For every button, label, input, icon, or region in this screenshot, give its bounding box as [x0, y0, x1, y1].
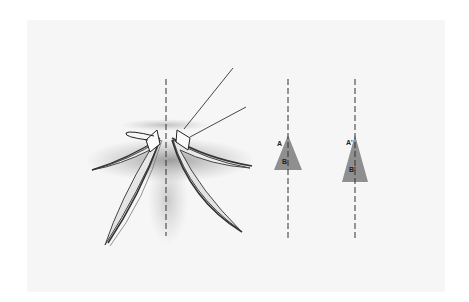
suture-thread-1: [184, 68, 233, 129]
right-skin-hook: [176, 68, 246, 150]
wound-shadow: [85, 119, 255, 245]
triangle-diagram-before: [274, 79, 302, 239]
label-b: B: [282, 158, 287, 165]
label-a: A: [277, 140, 282, 147]
label-a-prime: A': [346, 139, 353, 146]
label-b-prime: B': [349, 166, 356, 173]
surgical-illustration: [0, 0, 469, 302]
triangle-diagram-after: [342, 79, 368, 239]
